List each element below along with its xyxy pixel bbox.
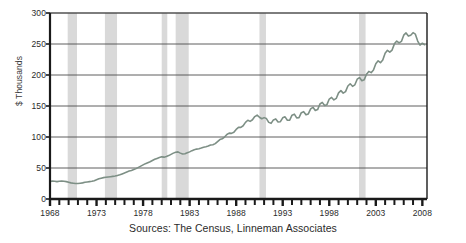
y-axis-tick-labels: 050100150200250300 xyxy=(8,0,46,243)
y-tick-label: 300 xyxy=(18,8,46,18)
x-tick-label: 2003 xyxy=(366,208,385,218)
y-tick-label: 200 xyxy=(18,70,46,80)
x-tick-label: 1978 xyxy=(133,208,152,218)
x-tick-label: 1983 xyxy=(180,208,199,218)
chart-container: $ Thousands 050100150200250300 196819731… xyxy=(0,0,466,243)
y-tick-label: 150 xyxy=(18,101,46,111)
x-axis-ticks xyxy=(50,199,422,206)
x-tick-label: 2008 xyxy=(413,208,432,218)
y-tick-label: 0 xyxy=(18,194,46,204)
chart-plot-area xyxy=(0,0,466,243)
y-tick-label: 50 xyxy=(18,163,46,173)
x-tick-label: 1973 xyxy=(87,208,106,218)
x-tick-label: 1968 xyxy=(40,208,59,218)
x-tick-label: 1998 xyxy=(320,208,339,218)
y-tick-label: 100 xyxy=(18,132,46,142)
y-tick-label: 250 xyxy=(18,39,46,49)
x-tick-label: 1993 xyxy=(273,208,292,218)
chart-caption: Sources: The Census, Linneman Associates xyxy=(0,222,466,234)
x-tick-label: 1988 xyxy=(227,208,246,218)
